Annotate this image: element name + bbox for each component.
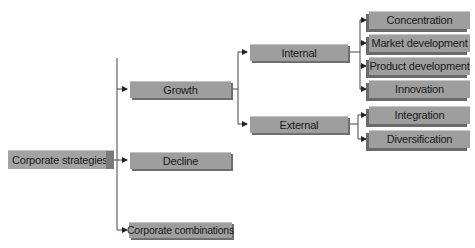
node-label: Market development [371,38,467,49]
node-innovation: Innovation [369,80,470,98]
node-diversification: Diversification [369,130,470,148]
node-label: Corporate strategies [12,155,108,166]
node-corporate-strategies: Corporate strategies [8,150,114,169]
node-label: Innovation [395,84,444,95]
node-label: External [280,120,319,131]
node-label: Decline [163,156,198,167]
node-corporate-combinations: Corporate combinations [129,222,232,238]
corporate-strategies-diagram: Corporate strategies Growth Decline Corp… [0,0,475,248]
node-external: External [250,116,348,133]
node-label: Product development [369,61,469,72]
node-label: Internal [281,48,316,59]
node-label: Corporate combinations [127,225,234,236]
node-market-development: Market development [369,34,470,52]
node-integration: Integration [369,106,470,124]
node-label: Integration [395,110,445,121]
node-label: Concentration [387,15,453,26]
node-internal: Internal [250,44,348,61]
node-growth: Growth [130,81,231,98]
node-concentration: Concentration [369,11,470,29]
node-label: Growth [163,85,197,96]
node-label: Diversification [387,134,452,145]
node-product-development: Product development [369,57,470,75]
node-decline: Decline [130,152,231,169]
